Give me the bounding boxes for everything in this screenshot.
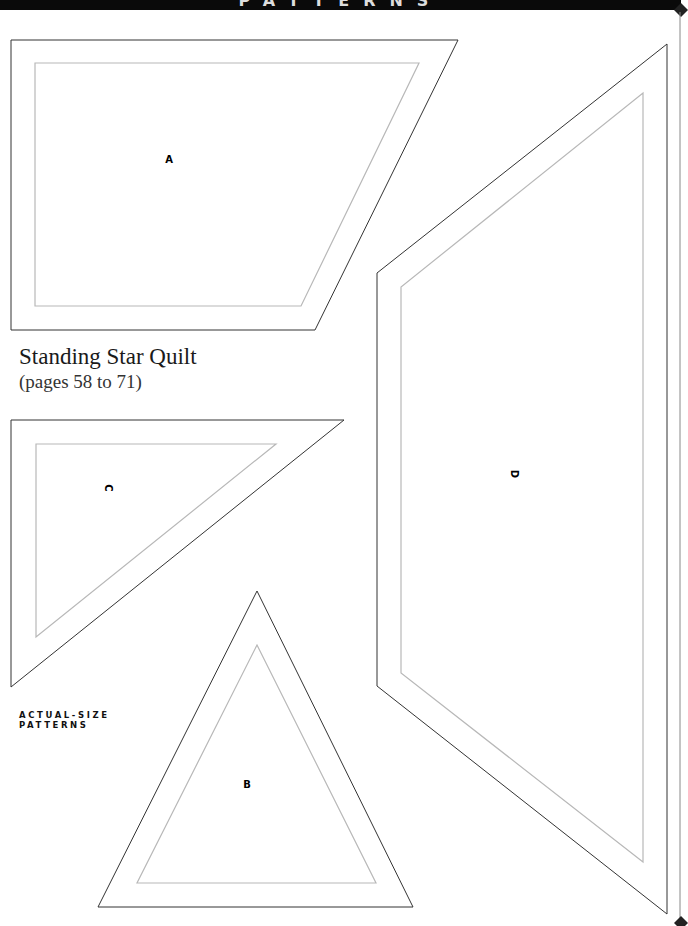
piece-a-label: A <box>165 154 173 165</box>
pattern-sheet <box>0 0 688 926</box>
page-reference: (pages 58 to 71) <box>19 371 142 393</box>
caption-line-1: ACTUAL-SIZE <box>19 710 110 720</box>
piece-c-label: C <box>103 484 114 491</box>
piece-b <box>98 591 413 907</box>
actual-size-caption: ACTUAL-SIZE PATTERNS <box>19 710 110 730</box>
piece-b-sew-line <box>137 645 376 883</box>
piece-d <box>377 44 667 914</box>
diamond-marker-bottom <box>674 916 688 926</box>
piece-d-label: D <box>509 470 520 478</box>
piece-a-cut-line <box>11 40 458 330</box>
quilt-title: Standing Star Quilt <box>19 344 197 370</box>
piece-a <box>11 40 458 330</box>
diamond-marker-top <box>674 3 688 17</box>
piece-c <box>11 420 344 687</box>
piece-b-label: B <box>243 779 251 790</box>
piece-a-sew-line <box>35 63 419 306</box>
piece-c-cut-line <box>11 420 344 687</box>
piece-d-cut-line <box>377 44 667 914</box>
piece-c-sew-line <box>36 444 276 637</box>
piece-b-cut-line <box>98 591 413 907</box>
piece-d-sew-line <box>401 93 643 862</box>
caption-line-2: PATTERNS <box>19 720 110 730</box>
